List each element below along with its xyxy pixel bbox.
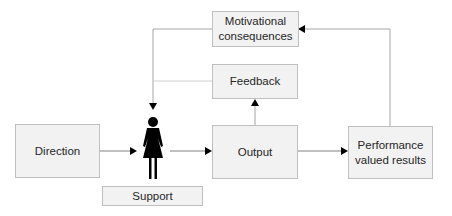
node-label-line2: consequences [218,29,292,44]
node-direction: Direction [15,124,100,178]
node-label: Output [238,145,273,160]
arrowhead-down-icon [149,103,157,110]
arrowhead-left-icon [298,25,305,33]
arrowhead-up-icon [251,99,259,106]
node-performance-valued-results: Performance valued results [348,126,433,179]
arrowhead-right-icon [130,147,137,155]
node-support: Support [102,186,203,206]
node-label: Support [132,189,172,204]
node-output: Output [212,125,298,179]
node-label-line2: valued results [355,153,426,168]
node-label-line1: Performance [355,138,426,153]
arrowhead-right-icon [205,147,212,155]
arrowhead-right-icon [341,147,348,155]
node-feedback: Feedback [212,64,298,99]
node-label: Direction [35,144,80,159]
node-label-line1: Motivational [218,14,292,29]
node-label: Feedback [230,74,281,89]
woman-icon [143,117,163,179]
node-motivational-consequences: Motivational consequences [212,11,299,47]
